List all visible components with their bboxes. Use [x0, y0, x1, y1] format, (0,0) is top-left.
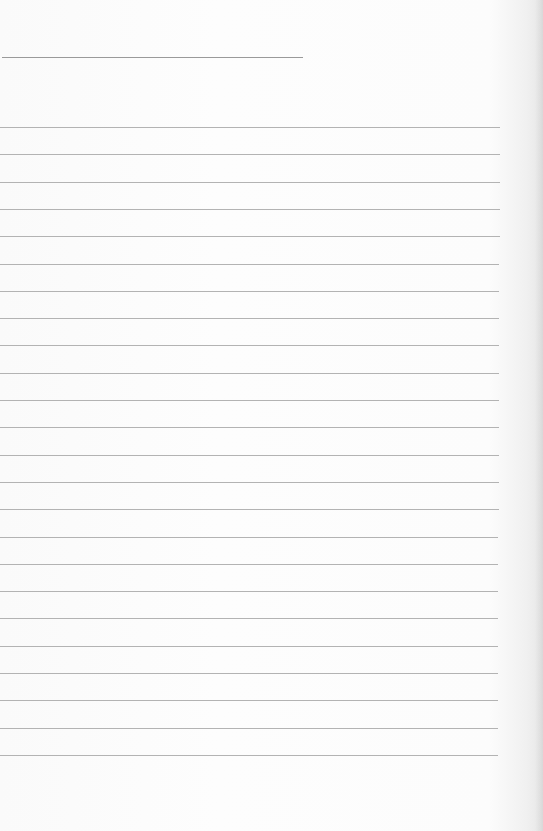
ruled-line: [0, 154, 500, 155]
ruled-line: [0, 673, 498, 674]
page-edge-shadow: [535, 0, 543, 831]
ruled-line: [0, 182, 500, 183]
ruled-line: [0, 482, 499, 483]
ruled-line: [0, 373, 499, 374]
ruled-line: [0, 509, 499, 510]
ruled-line: [0, 591, 498, 592]
ruled-line: [0, 400, 499, 401]
ruled-line: [0, 236, 500, 237]
ruled-line: [0, 291, 499, 292]
ruled-line: [0, 755, 498, 756]
ruled-line: [0, 537, 498, 538]
ruled-line: [0, 427, 499, 428]
ruled-line: [0, 345, 499, 346]
ruled-line: [0, 209, 500, 210]
ruled-line: [0, 127, 500, 128]
lined-paper-page: [0, 0, 543, 831]
ruled-line: [0, 455, 499, 456]
ruled-line: [0, 318, 499, 319]
ruled-line: [0, 728, 498, 729]
ruled-line: [0, 618, 498, 619]
ruled-line: [0, 564, 498, 565]
ruled-line: [0, 646, 498, 647]
ruled-line: [0, 264, 499, 265]
ruled-line: [0, 700, 498, 701]
header-line: [2, 57, 303, 58]
